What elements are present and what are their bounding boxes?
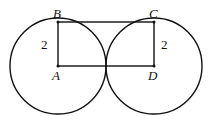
label-ab-length: 2: [41, 37, 48, 52]
label-a: A: [51, 68, 60, 83]
label-d: D: [147, 68, 158, 83]
label-cd-length: 2: [161, 37, 168, 52]
geometry-diagram: B C A D 2 2: [0, 0, 208, 116]
label-b: B: [53, 6, 61, 21]
label-c: C: [149, 6, 158, 21]
